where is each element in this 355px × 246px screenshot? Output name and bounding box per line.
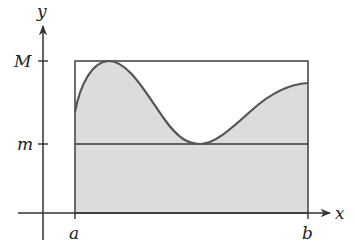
min-label-m: m — [17, 134, 33, 154]
x-label-b: b — [302, 223, 313, 243]
y-axis-label: y — [36, 1, 47, 21]
x-axis-label: x — [335, 203, 345, 223]
x-label-a: a — [69, 223, 79, 243]
integral-bounds-diagram: y x M m a b — [0, 0, 355, 246]
max-label-M: M — [13, 51, 32, 71]
area-under-curve — [75, 61, 308, 213]
